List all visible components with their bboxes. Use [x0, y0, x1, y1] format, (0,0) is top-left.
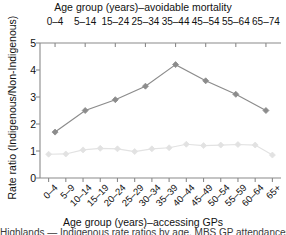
data-point-marker — [218, 142, 224, 148]
bottom-tick-label: 0–4 — [40, 182, 59, 201]
data-point-marker — [63, 151, 69, 157]
figure-caption-clipped: Highlands — Indigenous rate ratios by ag… — [0, 227, 286, 235]
data-point-marker — [263, 108, 269, 114]
y-axis-title: Rate ratio (Indigenous/Non-Indigenous) — [6, 25, 18, 200]
chart-figure: Age group (years)–avoidable mortality 0–… — [0, 0, 286, 235]
data-point-marker — [166, 145, 172, 151]
axis-lines — [40, 43, 281, 178]
data-point-marker — [112, 97, 118, 103]
data-point-marker — [235, 142, 241, 148]
data-point-marker — [97, 145, 103, 151]
data-point-marker — [46, 151, 52, 157]
data-point-marker — [114, 146, 120, 152]
data-point-marker — [183, 141, 189, 147]
data-point-marker — [149, 146, 155, 152]
series-avoidable-mortality — [52, 62, 269, 136]
top-axis-ticks — [55, 43, 266, 47]
data-point-marker — [203, 78, 209, 84]
data-point-marker — [233, 91, 239, 97]
data-point-marker — [252, 142, 258, 148]
data-point-marker — [201, 143, 207, 149]
bottom-axis-tick-labels: 0–45–910–1415–1920–2425–2930–3435–3940–4… — [0, 182, 286, 218]
data-point-marker — [132, 149, 138, 155]
series-accessing-gps — [46, 141, 276, 158]
series-line — [55, 65, 266, 133]
bottom-tick-label: 65+ — [264, 182, 283, 201]
y-axis-ticks — [36, 43, 40, 178]
data-point-marker — [80, 147, 86, 153]
data-point-marker — [269, 152, 275, 158]
